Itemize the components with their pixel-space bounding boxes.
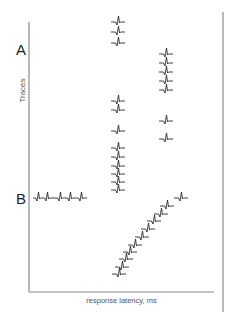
trace-a-16 [111,168,125,177]
panel-label-b: B [16,191,26,206]
trace-a-13 [111,142,125,151]
x-axis-label: response latency, ms [29,296,214,305]
panel-label-a: A [16,42,26,57]
response-traces [111,16,188,277]
stimulus-train [33,192,87,201]
trace-b-0 [174,192,188,201]
trace-b-9 [115,261,129,270]
trace-a-4 [159,57,173,66]
trace-a-17 [111,176,125,185]
trace-a-7 [159,84,173,93]
trace-a-6 [159,75,173,84]
y-axis-label: Traces [18,71,27,111]
trace-b-3 [147,215,161,224]
trace-a-15 [111,160,125,169]
trace-a-5 [159,66,173,75]
trace-a-18 [111,184,125,193]
trace-a-12 [159,133,173,142]
trace-a-14 [111,151,125,160]
trace-a-0 [111,16,125,25]
trace-a-9 [111,104,125,113]
trace-b-1 [160,200,174,209]
trace-a-2 [111,37,125,46]
stimulus-train-trace [33,192,87,201]
trace-a-8 [111,95,125,104]
plot-canvas [0,0,234,319]
trace-a-1 [111,26,125,35]
trace-b-10 [112,268,126,277]
trace-a-11 [111,125,125,134]
trace-b-7 [123,246,137,255]
trace-b-8 [119,253,133,262]
trace-a-3 [159,48,173,57]
latency-figure: A B Traces response latency, ms [0,0,234,319]
trace-a-10 [159,115,173,124]
